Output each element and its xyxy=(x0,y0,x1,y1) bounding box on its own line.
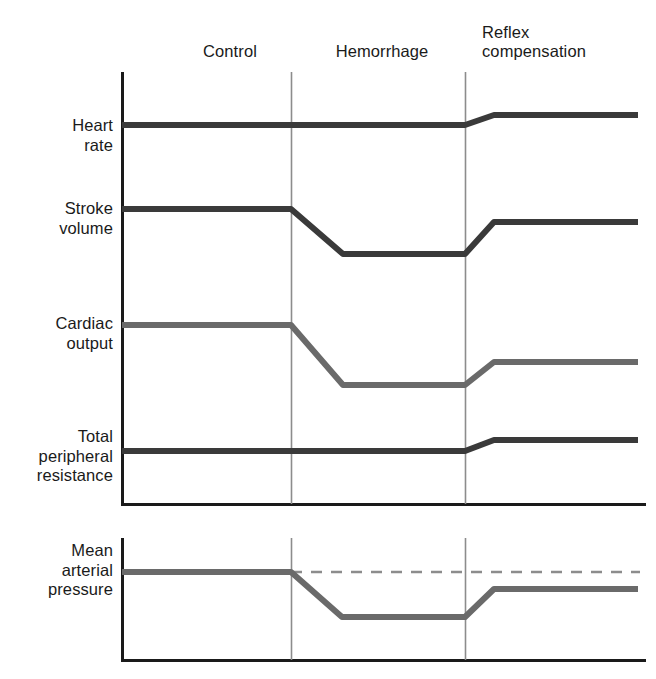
trace-stroke-volume xyxy=(122,209,638,254)
chart-plot-area xyxy=(0,0,656,679)
trace-cardiac-output xyxy=(122,325,638,385)
bottom-panel-axes xyxy=(122,538,646,662)
trace-mean-arterial-pressure xyxy=(122,572,638,617)
trace-heart-rate xyxy=(122,115,638,125)
top-panel-phase-dividers xyxy=(292,72,466,504)
trace-total-peripheral-resistance xyxy=(122,440,638,451)
cardiovascular-hemorrhage-figure: Control Hemorrhage Reflex compensation H… xyxy=(0,0,656,679)
